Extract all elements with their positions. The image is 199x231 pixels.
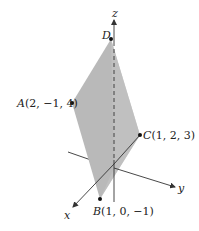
label-D-name: D xyxy=(101,29,111,42)
label-A: A(2, −1, 4) xyxy=(16,97,78,110)
label-B: B(1, 0, −1) xyxy=(92,205,154,218)
point-B xyxy=(98,197,102,201)
label-B-name: B xyxy=(92,205,101,218)
label-D: D xyxy=(101,29,111,42)
y-axis xyxy=(114,168,175,187)
x-axis-label: x xyxy=(64,209,71,222)
label-B-coords: (1, 0, −1) xyxy=(101,205,154,218)
label-A-coords: (2, −1, 4) xyxy=(25,97,78,110)
parallelogram-figure: z y x D A(2, −1, 4) C(1, 2, 3) B(1, 0, −… xyxy=(0,0,199,231)
z-axis-label: z xyxy=(111,7,118,20)
point-C xyxy=(138,133,142,137)
label-A-name: A xyxy=(16,97,25,110)
label-C: C(1, 2, 3) xyxy=(143,129,195,142)
y-axis-label: y xyxy=(177,182,185,195)
label-C-coords: (1, 2, 3) xyxy=(151,129,195,142)
